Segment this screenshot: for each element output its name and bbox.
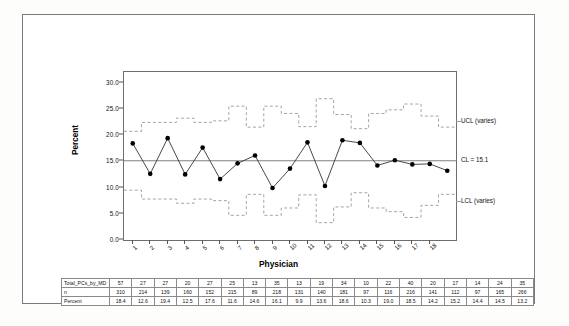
y-axis-tick-label: 10.0 <box>106 183 119 190</box>
data-point[interactable] <box>323 184 328 189</box>
lcl-step-line <box>124 190 456 223</box>
table-row-label: Total_PCs_by_MD <box>62 279 110 288</box>
table-cell: 24 <box>489 279 511 288</box>
data-point[interactable] <box>165 136 170 141</box>
y-axis-tick-label: 25.0 <box>106 104 119 111</box>
x-axis-tick-label: 12 <box>323 241 333 251</box>
x-axis-tick-label: 14 <box>358 241 368 251</box>
y-axis: 0.05.010.015.020.025.030.0 <box>101 71 123 239</box>
table-cell: 165 <box>489 288 511 297</box>
data-point[interactable] <box>340 138 345 143</box>
table-cell: 140 <box>310 288 332 297</box>
table-cell: 10.3 <box>355 297 377 306</box>
table-cell: 19 <box>310 279 332 288</box>
data-point[interactable] <box>375 163 380 168</box>
table-row-label: n <box>62 288 110 297</box>
y-axis-title: Percent <box>71 125 80 155</box>
data-point[interactable] <box>253 153 258 158</box>
table-cell: 15.2 <box>444 297 466 306</box>
y-axis-tick-label: 30.0 <box>106 78 119 85</box>
data-point[interactable] <box>218 177 223 182</box>
x-axis-tick-label: 9 <box>271 244 278 251</box>
x-axis-tick-label: 17 <box>410 241 420 251</box>
cl-annotation: CL = 15.1 <box>461 156 488 163</box>
table-cell: 13.6 <box>310 297 332 306</box>
x-axis-title: Physician <box>23 259 534 269</box>
ucl-step-line <box>124 99 456 132</box>
table-cell: 27 <box>154 279 176 288</box>
lcl-connector <box>456 201 461 202</box>
ucl-connector <box>456 121 461 122</box>
table-cell: 13 <box>288 279 310 288</box>
table-cell: 22 <box>377 279 399 288</box>
data-point[interactable] <box>393 158 398 163</box>
table-cell: 12.6 <box>132 297 154 306</box>
table-row-label: Percent <box>62 297 110 306</box>
data-point[interactable] <box>427 162 432 167</box>
table-cell: 17.6 <box>199 297 221 306</box>
table-cell: 139 <box>154 288 176 297</box>
table-cell: 20 <box>422 279 444 288</box>
table-cell: 152 <box>199 288 221 297</box>
data-point[interactable] <box>130 141 135 146</box>
table-cell: 97 <box>466 288 488 297</box>
report-frame: 0.05.010.015.020.025.030.0 Percent 12345… <box>22 14 535 304</box>
chart-canvas <box>124 72 456 240</box>
table-cell: 218 <box>266 288 288 297</box>
data-point[interactable] <box>358 141 363 146</box>
table-cell: 35 <box>511 279 533 288</box>
x-axis-tick-label: 6 <box>218 244 225 251</box>
x-axis-tick-label: 5 <box>201 244 208 251</box>
table-cell: 160 <box>176 288 198 297</box>
data-point[interactable] <box>148 172 153 177</box>
data-point[interactable] <box>200 145 205 150</box>
data-point[interactable] <box>183 172 188 177</box>
table-cell: 16.1 <box>266 297 288 306</box>
x-axis-tick-label: 10 <box>288 241 298 251</box>
table-cell: 14.6 <box>243 297 265 306</box>
data-point[interactable] <box>305 140 310 145</box>
table-cell: 266 <box>511 288 533 297</box>
table-cell: 27 <box>199 279 221 288</box>
table-cell: 35 <box>266 279 288 288</box>
table-cell: 116 <box>377 288 399 297</box>
percent-series-line <box>133 138 448 188</box>
plot-area <box>123 71 457 241</box>
table-cell: 181 <box>333 288 355 297</box>
data-point[interactable] <box>410 162 415 167</box>
table-cell: 18.4 <box>109 297 131 306</box>
table-cell: 25 <box>221 279 243 288</box>
y-axis-tick-label: 20.0 <box>106 131 119 138</box>
table-cell: 310 <box>109 288 131 297</box>
data-point[interactable] <box>235 161 240 166</box>
x-axis-tick-label: 1 <box>131 244 138 251</box>
table-cell: 112 <box>444 288 466 297</box>
table-cell: 19.0 <box>377 297 399 306</box>
table-cell: 18.6 <box>333 297 355 306</box>
table-cell: 17 <box>444 279 466 288</box>
x-axis-tick-label: 15 <box>375 241 385 251</box>
data-point[interactable] <box>445 168 450 173</box>
data-point[interactable] <box>270 186 275 191</box>
x-axis-tick-label: 3 <box>166 244 173 251</box>
table-cell: 14.4 <box>466 297 488 306</box>
table-cell: 13 <box>243 279 265 288</box>
table-cell: 131 <box>288 288 310 297</box>
y-axis-tick-label: 5.0 <box>110 209 119 216</box>
table-cell: 141 <box>422 288 444 297</box>
table-cell: 12.5 <box>176 297 198 306</box>
table-cell: 97 <box>355 288 377 297</box>
table-cell: 215 <box>221 288 243 297</box>
table-cell: 14.2 <box>422 297 444 306</box>
table-cell: 14 <box>466 279 488 288</box>
x-axis-tick-label: 4 <box>183 244 190 251</box>
table-cell: 11.6 <box>221 297 243 306</box>
table-cell: 18.5 <box>399 297 421 306</box>
table-row: Total_PCs_by_MD5727272027251335131934102… <box>62 279 534 288</box>
table-row: n310214139160152215892181311401819711621… <box>62 288 534 297</box>
x-axis-tick-label: 13 <box>340 241 350 251</box>
table-cell: 19.4 <box>154 297 176 306</box>
x-axis-tick-label: 8 <box>253 244 260 251</box>
data-point[interactable] <box>288 166 293 171</box>
control-chart-screenshot: 0.05.010.015.020.025.030.0 Percent 12345… <box>0 0 569 326</box>
